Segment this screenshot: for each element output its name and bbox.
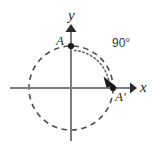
- x-axis-arrowhead: [130, 83, 137, 94]
- rotation-diagram: y x A A' 90°: [0, 0, 153, 149]
- y-axis-label: y: [66, 7, 75, 23]
- x-axis-label: x: [139, 79, 147, 95]
- y-axis-arrowhead: [66, 24, 77, 32]
- point-a-prime-label: A': [114, 89, 126, 104]
- figure-canvas: y x A A' 90°: [0, 0, 153, 149]
- angle-label: 90°: [112, 36, 130, 50]
- point-a-marker: [68, 43, 74, 49]
- point-a-label: A: [55, 33, 64, 48]
